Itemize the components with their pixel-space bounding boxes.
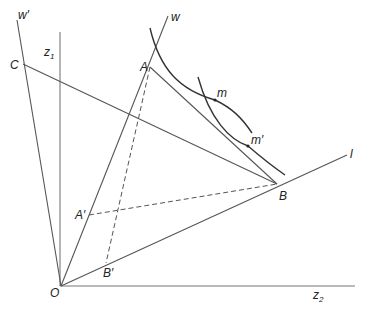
label-m: m (217, 86, 227, 100)
label-a: A (139, 60, 148, 74)
dashed-a-b-prime (106, 67, 150, 263)
indifference-curve-m-prime (198, 77, 285, 175)
label-b-prime: B′ (103, 266, 114, 280)
label-c: C (10, 58, 19, 72)
label-w: w (171, 10, 181, 24)
label-z1: z1 (43, 45, 54, 61)
label-z2: z2 (312, 288, 324, 304)
line-a-b (150, 67, 277, 184)
label-w-prime: w′ (18, 8, 30, 22)
diagram: w′ z1 C w A m m′ l B A′ B′ O z2 (0, 0, 369, 311)
label-a-prime: A′ (74, 208, 86, 222)
line-c-b (23, 64, 277, 184)
diagram-canvas: w′ z1 C w A m m′ l B A′ B′ O z2 (0, 0, 369, 311)
ray-w (61, 16, 168, 286)
point-m-prime (246, 144, 249, 147)
label-o: O (50, 286, 59, 300)
label-l: l (350, 147, 353, 161)
label-m-prime: m′ (251, 133, 264, 147)
label-b: B (279, 189, 287, 203)
